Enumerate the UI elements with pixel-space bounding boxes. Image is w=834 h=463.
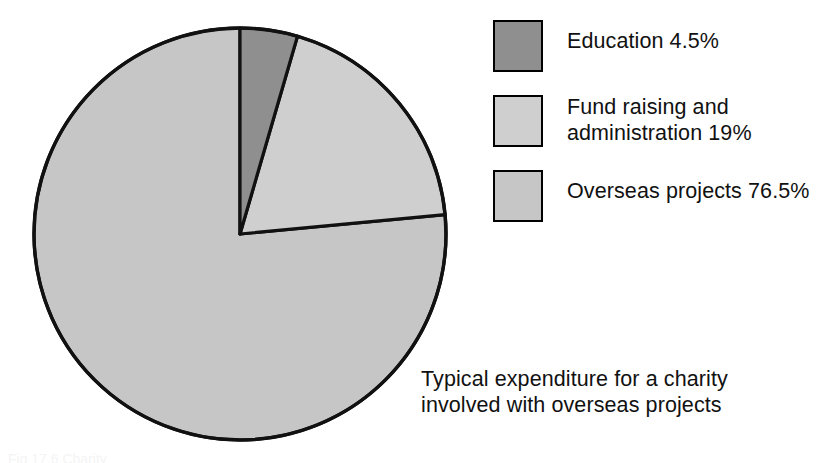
legend-swatch-education	[493, 20, 543, 72]
chart-legend: Education 4.5% Fund raising and administ…	[493, 18, 828, 243]
pie-chart-svg	[0, 0, 470, 463]
figure-number-label: Fig 17.6 Charity	[8, 452, 107, 463]
legend-label-fund-raising: Fund raising and administration 19%	[567, 93, 752, 146]
pie-chart	[0, 0, 470, 463]
legend-swatch-overseas-projects	[493, 170, 543, 222]
legend-item-overseas-projects[interactable]: Overseas projects 76.5%	[493, 168, 828, 222]
figure-container: Education 4.5% Fund raising and administ…	[0, 0, 834, 463]
chart-caption: Typical expenditure for a charity involv…	[421, 366, 821, 418]
legend-label-education: Education 4.5%	[567, 18, 719, 54]
legend-item-fund-raising[interactable]: Fund raising and administration 19%	[493, 93, 828, 147]
legend-item-education[interactable]: Education 4.5%	[493, 18, 828, 72]
legend-label-overseas-projects: Overseas projects 76.5%	[567, 168, 810, 204]
legend-swatch-fund-raising	[493, 95, 543, 147]
